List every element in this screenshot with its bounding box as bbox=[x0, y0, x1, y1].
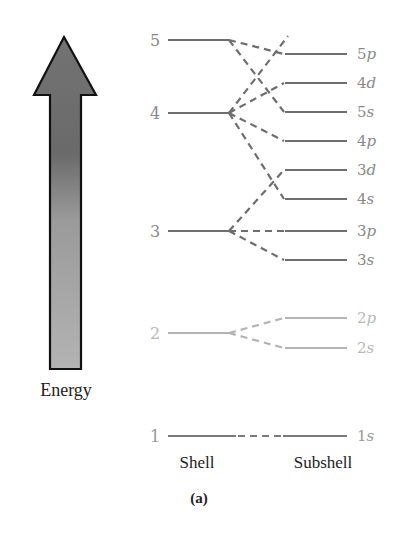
subshell-3s: 3s bbox=[285, 251, 375, 269]
subshell-2s: 2s bbox=[285, 339, 375, 357]
shell-levels: 5 4 3 2 1 bbox=[150, 31, 236, 446]
shell-label-5: 5 bbox=[150, 31, 160, 50]
energy-level-diagram: Energy 5 4 3 2 1 5p bbox=[0, 0, 401, 533]
svg-text:4s: 4s bbox=[357, 190, 375, 208]
connector-2-2p bbox=[229, 318, 284, 333]
subshell-5p: 5p bbox=[285, 45, 377, 63]
svg-text:3s: 3s bbox=[357, 251, 375, 269]
energy-arrow bbox=[34, 37, 96, 369]
subshell-4d: 4d bbox=[285, 74, 376, 92]
shell-column-label: Shell bbox=[180, 453, 215, 472]
up-arrow-icon bbox=[34, 37, 96, 369]
splitting-connectors bbox=[229, 36, 288, 436]
subshell-3p: 3p bbox=[285, 222, 377, 240]
svg-text:1s: 1s bbox=[357, 427, 375, 445]
connector-2-2s bbox=[229, 333, 284, 348]
svg-text:4d: 4d bbox=[357, 74, 376, 92]
svg-text:3p: 3p bbox=[357, 222, 377, 240]
shell-label-2: 2 bbox=[150, 324, 160, 343]
shell-label-4: 4 bbox=[150, 104, 160, 123]
connector-3-3s bbox=[229, 231, 284, 260]
svg-text:3d: 3d bbox=[357, 161, 376, 179]
svg-text:4p: 4p bbox=[357, 132, 377, 150]
connector-4-4d bbox=[229, 83, 284, 113]
figure-caption: (a) bbox=[190, 490, 208, 507]
shell-label-3: 3 bbox=[150, 222, 160, 241]
energy-axis-label: Energy bbox=[40, 380, 92, 400]
subshell-2p: 2p bbox=[285, 309, 377, 327]
svg-text:5s: 5s bbox=[357, 103, 375, 121]
subshell-levels: 5p 4d 5s 4p 3d 4s 3p 3s bbox=[283, 45, 377, 445]
svg-text:2p: 2p bbox=[357, 309, 377, 327]
subshell-column-label: Subshell bbox=[294, 453, 353, 472]
shell-label-1: 1 bbox=[150, 427, 160, 446]
subshell-1s: 1s bbox=[283, 427, 375, 445]
connector-3-3d bbox=[229, 170, 284, 231]
subshell-5s: 5s bbox=[285, 103, 375, 121]
subshell-3d: 3d bbox=[285, 161, 376, 179]
svg-text:2s: 2s bbox=[357, 339, 375, 357]
svg-text:5p: 5p bbox=[357, 45, 377, 63]
subshell-4s: 4s bbox=[285, 190, 375, 208]
subshell-4p: 4p bbox=[285, 132, 377, 150]
